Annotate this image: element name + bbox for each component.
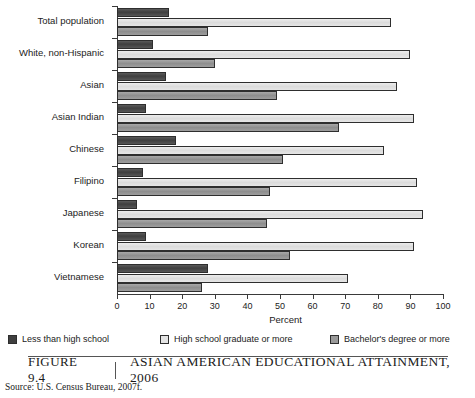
x-axis-tick-label: 100 [428, 301, 458, 311]
x-axis-tick [443, 294, 444, 299]
chart-plot-area: Total populationWhite, non-HispanicAsian… [0, 0, 475, 300]
figure-source: Source: U.S. Census Bureau, 2007f. [5, 382, 142, 392]
bar-0 [117, 200, 137, 209]
x-axis-tick-label: 10 [135, 301, 165, 311]
category-label: Filipino [74, 176, 104, 186]
bar-0 [117, 168, 143, 177]
bar-1 [117, 274, 348, 283]
category-label: Asian Indian [52, 112, 104, 122]
bar-1 [117, 178, 417, 187]
category-label: Japanese [63, 208, 104, 218]
x-axis-tick [247, 294, 248, 299]
bar-2 [117, 283, 202, 292]
chart-legend: Less than high school High school gradua… [0, 332, 475, 352]
bar-1 [117, 114, 414, 123]
bar-2 [117, 187, 270, 196]
x-axis-tick-label: 40 [232, 301, 262, 311]
category-label: Korean [73, 240, 104, 250]
bar-2 [117, 219, 267, 228]
bar-0 [117, 264, 208, 273]
bar-1 [117, 82, 397, 91]
x-axis-tick [280, 294, 281, 299]
legend-swatch-icon [8, 335, 17, 344]
bar-0 [117, 104, 146, 113]
legend-item-high-school-graduate-or-more: High school graduate or more [160, 334, 293, 344]
figure-caption: Figure 9.4 Asian American Educational At… [28, 360, 475, 380]
bar-2 [117, 27, 208, 36]
x-axis-tick-label: 90 [395, 301, 425, 311]
bar-2 [117, 91, 277, 100]
bar-1 [117, 210, 423, 219]
x-axis-tick [313, 294, 314, 299]
x-axis-tick-label: 70 [330, 301, 360, 311]
bar-0 [117, 232, 146, 241]
bar-0 [117, 40, 153, 49]
bar-2 [117, 59, 215, 68]
x-axis-tick-label: 20 [167, 301, 197, 311]
bar-0 [117, 136, 176, 145]
bar-2 [117, 155, 283, 164]
x-axis-title: Percent [0, 314, 475, 325]
x-axis-tick [410, 294, 411, 299]
legend-swatch-icon [330, 335, 339, 344]
figure-title: Asian American Educational Attainment, 2… [130, 354, 475, 386]
bar-0 [117, 8, 169, 17]
x-axis-title-text: Percent [269, 314, 302, 325]
legend-item-less-than-high-school: Less than high school [8, 334, 109, 344]
category-axis-labels: Total populationWhite, non-HispanicAsian… [0, 0, 112, 288]
x-axis-tick-label: 0 [102, 301, 132, 311]
legend-label: Less than high school [22, 334, 109, 344]
bar-1 [117, 50, 410, 59]
x-axis-tick [150, 294, 151, 299]
category-label: Total population [37, 16, 104, 26]
figure-container: Total populationWhite, non-HispanicAsian… [0, 0, 475, 398]
category-label: Vietnamese [54, 272, 104, 282]
x-axis-tick [345, 294, 346, 299]
legend-item-bachelors-degree-or-more: Bachelor's degree or more [330, 334, 450, 344]
x-axis-tick [378, 294, 379, 299]
x-axis-tick-label: 60 [298, 301, 328, 311]
x-axis-tick [182, 294, 183, 299]
category-label: White, non-Hispanic [19, 48, 104, 58]
bar-1 [117, 146, 384, 155]
caption-separator [115, 362, 116, 379]
bar-2 [117, 251, 290, 260]
category-label: Chinese [69, 144, 104, 154]
bar-2 [117, 123, 339, 132]
legend-label: Bachelor's degree or more [344, 334, 450, 344]
x-axis-tick-label: 80 [363, 301, 393, 311]
bar-1 [117, 242, 414, 251]
legend-label: High school graduate or more [174, 334, 293, 344]
bar-0 [117, 72, 166, 81]
bar-1 [117, 18, 391, 27]
category-label: Asian [80, 80, 104, 90]
x-axis-tick-label: 30 [200, 301, 230, 311]
legend-swatch-icon [160, 335, 169, 344]
x-axis-tick-label: 50 [265, 301, 295, 311]
x-axis-tick [215, 294, 216, 299]
x-axis-tick [117, 294, 118, 299]
